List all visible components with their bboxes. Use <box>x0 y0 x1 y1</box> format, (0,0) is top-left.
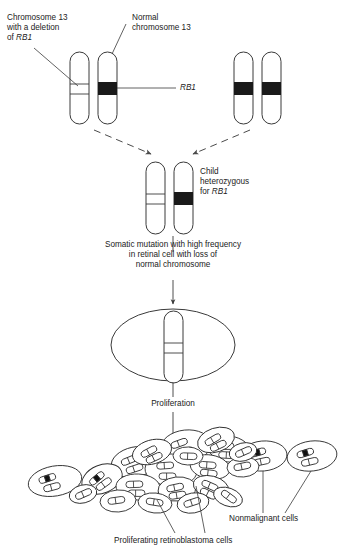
label-proliferation: Proliferation <box>133 399 213 409</box>
diagram-canvas <box>0 0 348 559</box>
parent-pair-right <box>234 52 281 124</box>
label-nonmalignant-cells: Nonmalignant cells <box>229 514 298 524</box>
label-normal-chromosome: Normal chromosome 13 <box>132 13 191 33</box>
retinal-cell <box>111 309 235 383</box>
inheritance-arrow-right <box>193 130 250 154</box>
label-deleted-chromosome: Chromosome 13 with a deletion of RB1 <box>7 13 68 44</box>
parent-pair-left <box>70 52 117 124</box>
leader-nonmalignant-b <box>285 471 311 513</box>
leader-normal-chromosome <box>112 24 126 54</box>
inheritance-arrow-left <box>94 130 151 154</box>
label-child: Child heterozygous for RB1 <box>200 167 249 198</box>
gene-name-rb1-child: RB1 <box>212 187 228 196</box>
nonmalignant-cell <box>285 438 338 474</box>
label-rb1-callout: RB1 <box>180 83 196 93</box>
gene-name-rb1: RB1 <box>16 33 32 42</box>
label-tumor-cells: Proliferating retinoblastoma cells <box>114 536 232 546</box>
label-somatic-mutation: Somatic mutation with high frequency in … <box>42 240 304 271</box>
child-pair <box>146 162 193 234</box>
retinoblastoma-diagram: Chromosome 13 with a deletion of RB1 Nor… <box>0 0 348 559</box>
